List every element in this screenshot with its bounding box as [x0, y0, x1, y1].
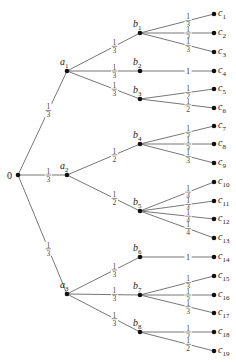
edge-b3-c6: [140, 99, 214, 108]
edge-b7-c17: [140, 295, 214, 313]
edge-a1-b3: [67, 71, 140, 99]
edge-b8-c19: [140, 332, 214, 351]
svg-text:1: 1: [186, 66, 191, 76]
label-b6: b6: [133, 242, 142, 256]
node-c5: [212, 87, 217, 92]
probability-label: 13: [111, 286, 118, 303]
root-label: 0: [7, 170, 12, 181]
label-c15: c15: [218, 269, 230, 283]
svg-text:3: 3: [47, 175, 51, 184]
edge-a3-b6: [67, 257, 140, 294]
label-c2: c2: [218, 26, 226, 40]
label-c17: c17: [218, 306, 230, 320]
node-c15: [212, 274, 217, 279]
svg-text:3: 3: [113, 270, 117, 279]
svg-text:1: 1: [186, 252, 191, 262]
label-c8: c8: [218, 137, 226, 151]
label-c9: c9: [218, 156, 226, 170]
label-c14: c14: [218, 250, 230, 264]
node-labels: 0a1a2a3b1b2b3b4b5b6b7b8c1c2c3c4c5c6c7c8c…: [7, 7, 230, 358]
label-b4: b4: [133, 129, 142, 143]
svg-text:3: 3: [47, 110, 51, 119]
label-c6: c6: [218, 101, 226, 115]
root-node: [16, 173, 21, 178]
label-b8: b8: [133, 317, 142, 331]
label-c7: c7: [218, 119, 226, 133]
edge-b1-c3: [140, 33, 214, 52]
probability-label: 13: [111, 38, 118, 55]
probability-label: 13: [111, 63, 118, 80]
node-c2: [212, 31, 217, 36]
probability-label: 14: [185, 220, 192, 237]
probability-label: 13: [185, 148, 192, 165]
label-c11: c11: [218, 194, 230, 208]
edge-a2-b4: [67, 144, 140, 175]
probability-label: 13: [45, 167, 52, 184]
probability-label: 12: [111, 190, 118, 207]
label-c19: c19: [218, 344, 230, 358]
node-c6: [212, 106, 217, 111]
label-c13: c13: [218, 231, 230, 245]
edge-b7-c15: [140, 276, 214, 295]
edge-b3-c5: [140, 89, 214, 99]
svg-text:3: 3: [113, 89, 117, 98]
node-c4: [212, 69, 217, 74]
edge-a1-b1: [67, 33, 140, 71]
edge-b1-c1: [140, 14, 214, 33]
label-c3: c3: [218, 45, 226, 59]
svg-text:3: 3: [113, 46, 117, 55]
svg-text:3: 3: [113, 71, 117, 80]
node-c3: [212, 50, 217, 55]
probability-label: 12: [185, 336, 192, 353]
label-b2: b2: [133, 56, 142, 70]
node-c12: [212, 217, 217, 222]
label-c16: c16: [218, 288, 230, 302]
node-c7: [212, 124, 217, 129]
edge-b5-c11: [140, 201, 214, 211]
probability-label: 13: [45, 241, 52, 258]
label-b7: b7: [133, 280, 142, 294]
svg-text:4: 4: [186, 228, 190, 237]
node-c1: [212, 12, 217, 17]
edge-a3-b7: [67, 294, 140, 295]
svg-text:2: 2: [186, 105, 190, 114]
probability-label: 13: [185, 299, 192, 316]
label-a1: a1: [60, 56, 69, 70]
node-c19: [212, 349, 217, 354]
node-c17: [212, 311, 217, 316]
label-b1: b1: [133, 18, 142, 32]
edge-a2-b5: [67, 175, 140, 211]
probability-tree-diagram: 1313131313131212131313131313112121313131…: [0, 0, 236, 362]
label-c18: c18: [218, 325, 230, 339]
svg-text:3: 3: [186, 156, 190, 165]
edge-a3-b8: [67, 294, 140, 332]
edge-b4-c9: [140, 144, 214, 163]
node-c16: [212, 293, 217, 298]
label-c5: c5: [218, 82, 226, 96]
probability-label: 12: [111, 147, 118, 164]
probability-label: 12: [185, 97, 192, 114]
node-c13: [212, 236, 217, 241]
edge-b4-c7: [140, 126, 214, 144]
label-c12: c12: [218, 212, 230, 226]
probability-label: 13: [111, 262, 118, 279]
label-a3: a3: [60, 279, 69, 293]
svg-text:2: 2: [113, 155, 117, 164]
probability-label: 1: [185, 252, 192, 262]
svg-text:3: 3: [47, 249, 51, 258]
svg-text:2: 2: [113, 198, 117, 207]
node-c14: [212, 255, 217, 260]
probability-label: 13: [185, 37, 192, 54]
probability-label: 1: [185, 66, 192, 76]
svg-text:3: 3: [186, 45, 190, 54]
label-c1: c1: [218, 7, 226, 21]
svg-text:3: 3: [113, 294, 117, 303]
svg-text:2: 2: [186, 344, 190, 353]
edge-root-a3: [18, 175, 67, 294]
edge-b5-c10: [140, 182, 214, 211]
label-b5: b5: [133, 196, 142, 210]
node-c11: [212, 199, 217, 204]
svg-text:3: 3: [113, 319, 117, 328]
node-c8: [212, 142, 217, 147]
label-c4: c4: [218, 64, 226, 78]
